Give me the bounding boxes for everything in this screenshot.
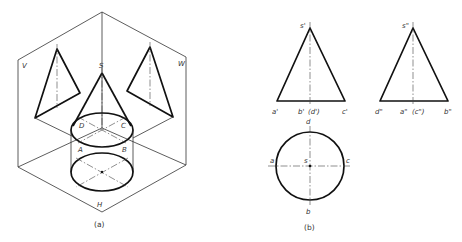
label-side-d: d": [375, 108, 383, 116]
label-d: D: [79, 122, 85, 130]
h-center-point: [101, 171, 103, 173]
label-top-d: d: [306, 118, 311, 126]
cone-left-generator: [73, 73, 102, 126]
front-view-triangle: [277, 28, 345, 101]
label-apex-s: S: [99, 62, 104, 70]
label-b: B: [122, 146, 127, 154]
box-edge-right: [102, 128, 186, 165]
label-c: C: [121, 122, 126, 130]
box-edge-left: [18, 128, 102, 167]
label-side-c: (c"): [412, 108, 425, 116]
caption-b: (b): [304, 223, 315, 232]
label-front-a: a': [272, 108, 278, 116]
top-view-center-point: [309, 165, 312, 168]
label-top-s: s: [304, 157, 308, 165]
figure-a-isometric: V W H S D C A B (a): [18, 12, 186, 229]
label-v-plane: V: [22, 62, 28, 70]
label-w-plane: W: [178, 60, 186, 68]
w-plane-projector: [133, 117, 173, 138]
caption-a: (a): [94, 220, 105, 229]
label-top-a: a: [270, 157, 274, 165]
cone-right-generator: [102, 73, 131, 126]
v-plane-triangle: [35, 49, 80, 118]
cone-projection-diagram: V W H S D C A B (a) s' a' b' (d') c' s" …: [0, 0, 462, 242]
label-front-d: (d'): [308, 108, 320, 116]
label-front-b: b': [298, 108, 304, 116]
label-a: A: [77, 146, 83, 154]
label-h-plane: H: [97, 201, 103, 209]
label-top-b: b: [306, 208, 311, 216]
label-top-c: c: [346, 157, 350, 165]
label-front-c: c': [342, 108, 348, 116]
label-side-a: a": [400, 108, 408, 116]
label-side-b: b": [444, 108, 452, 116]
v-plane-projector: [35, 118, 72, 136]
label-front-apex: s': [300, 22, 306, 30]
side-view-triangle: [380, 28, 448, 101]
label-side-apex: s": [402, 22, 409, 30]
figure-b-orthographic: s' a' b' (d') c' s" d" a" (c") b" d b a …: [268, 22, 452, 232]
